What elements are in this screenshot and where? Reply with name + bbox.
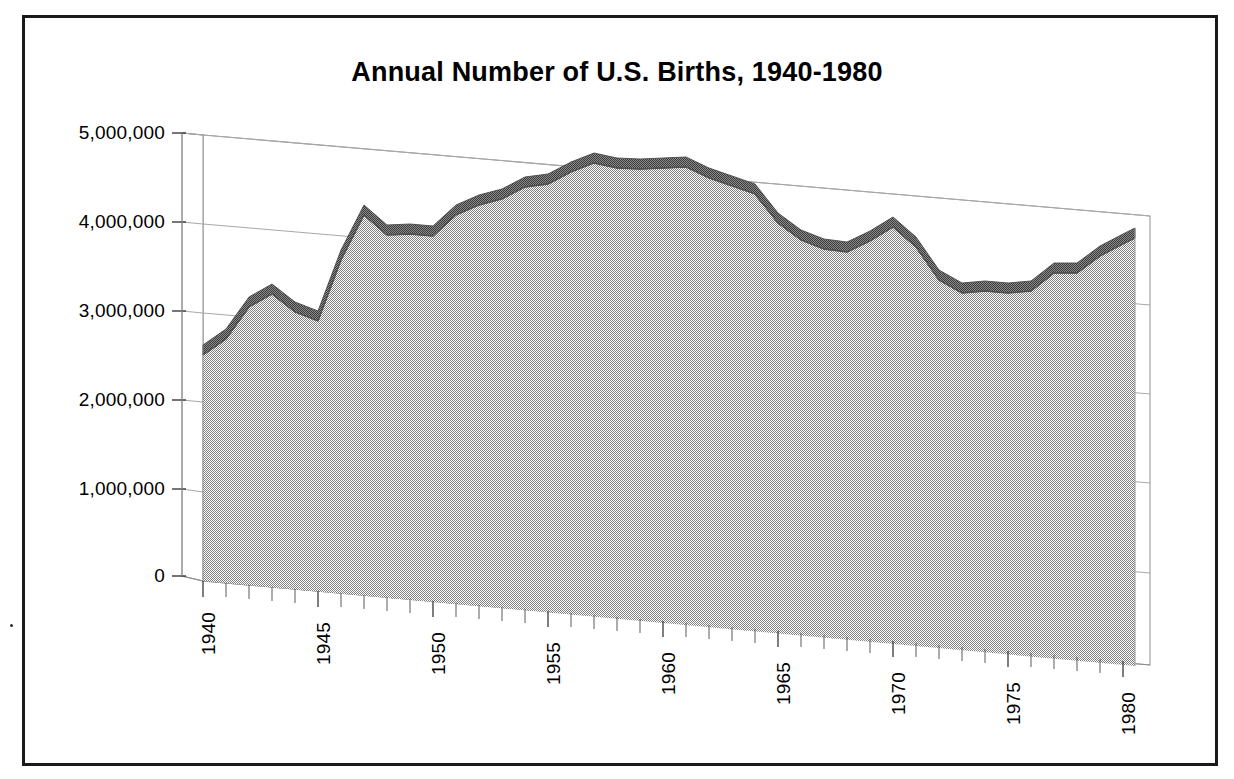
x-tick-label-1950: 1950 xyxy=(428,632,450,675)
y-tick-label-5000000: 5,000,000 xyxy=(10,122,165,144)
x-tick-label-1975: 1975 xyxy=(1003,682,1025,725)
x-tick-label-1960: 1960 xyxy=(658,652,680,695)
x-tick-label-1940: 1940 xyxy=(198,612,220,655)
x-tick-label-1980: 1980 xyxy=(1118,692,1140,735)
y-tick-label-4000000: 4,000,000 xyxy=(10,211,165,233)
y-tick-label-2000000: 2,000,000 xyxy=(10,389,165,411)
y-tick-label-0: 0 xyxy=(10,565,165,587)
chart-plot-area xyxy=(0,0,1234,779)
x-tick-label-1955: 1955 xyxy=(543,642,565,685)
x-tick-label-1945: 1945 xyxy=(313,622,335,665)
screenshot-page: Annual Number of U.S. Births, 1940-1980 xyxy=(0,0,1234,779)
y-tick-label-3000000: 3,000,000 xyxy=(10,300,165,322)
y-tick-label-1000000: 1,000,000 xyxy=(10,478,165,500)
x-tick-label-1970: 1970 xyxy=(888,672,910,715)
x-tick-label-1965: 1965 xyxy=(773,662,795,705)
